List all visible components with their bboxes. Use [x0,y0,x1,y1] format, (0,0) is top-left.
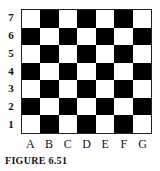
row-label-7: 7 [6,11,16,23]
square-E6 [96,28,114,46]
row-label-4: 4 [6,65,16,77]
row-label-5: 5 [6,47,16,59]
square-G3 [133,80,151,98]
column-label-B: B [40,137,58,152]
row-label-6: 6 [6,29,16,41]
square-B5 [40,45,58,63]
row-label-2: 2 [6,100,16,112]
square-F4 [114,63,132,81]
square-E2 [96,98,114,116]
square-B2 [40,98,58,116]
square-E3 [96,80,114,98]
square-A4 [22,63,40,81]
square-B1 [40,115,58,133]
square-G6 [133,28,151,46]
square-A3 [22,80,40,98]
square-C5 [59,45,77,63]
figure-caption: FIGURE 6.51 [5,155,67,166]
square-G5 [133,45,151,63]
square-B3 [40,80,58,98]
square-E1 [96,115,114,133]
square-F6 [114,28,132,46]
square-D2 [77,98,95,116]
square-C7 [59,10,77,28]
column-label-G: G [134,137,152,152]
column-label-C: C [59,137,77,152]
square-A6 [22,28,40,46]
square-A5 [22,45,40,63]
row-label-1: 1 [6,118,16,130]
column-label-E: E [96,137,114,152]
column-label-A: A [21,137,39,152]
square-E5 [96,45,114,63]
square-E4 [96,63,114,81]
row-label-3: 3 [6,82,16,94]
square-D3 [77,80,95,98]
square-D4 [77,63,95,81]
column-label-D: D [78,137,96,152]
square-G1 [133,115,151,133]
square-D5 [77,45,95,63]
square-A2 [22,98,40,116]
square-B4 [40,63,58,81]
square-C1 [59,115,77,133]
square-C2 [59,98,77,116]
square-B7 [40,10,58,28]
square-D6 [77,28,95,46]
square-C6 [59,28,77,46]
square-D1 [77,115,95,133]
square-E7 [96,10,114,28]
square-C4 [59,63,77,81]
square-G2 [133,98,151,116]
square-F2 [114,98,132,116]
square-F5 [114,45,132,63]
square-A7 [22,10,40,28]
square-G7 [133,10,151,28]
square-C3 [59,80,77,98]
square-B6 [40,28,58,46]
square-G4 [133,63,151,81]
square-F1 [114,115,132,133]
checkerboard [21,9,152,134]
square-F3 [114,80,132,98]
square-A1 [22,115,40,133]
square-F7 [114,10,132,28]
square-D7 [77,10,95,28]
column-label-F: F [115,137,133,152]
